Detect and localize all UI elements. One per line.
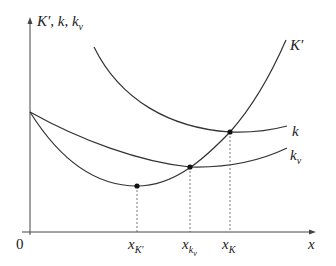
curve-label-K-prime: K′ (290, 38, 303, 53)
tick-label-xKprime: xK′ (128, 237, 144, 255)
tick-label-xK: xK (222, 237, 235, 255)
curve-label-k: k (292, 124, 299, 139)
diagram-svg (0, 0, 336, 266)
tick-label-xkv: xkv (182, 237, 197, 258)
x-axis-arrow-icon (309, 230, 316, 235)
point-kv-intersection (187, 164, 192, 169)
origin-label: 0 (16, 237, 24, 252)
curve-label-kv: kv (290, 148, 301, 166)
curve-k (94, 47, 287, 132)
point-k-intersection (227, 129, 232, 134)
y-axis-arrow-icon (28, 17, 33, 24)
x-axis-label: x (308, 237, 315, 252)
y-axis-label: K′, k, kv (37, 14, 83, 32)
cost-curves-diagram: K′, k, kv K′ k kv 0 x xK′ xkv xK (0, 0, 336, 266)
point-K-prime-min (134, 183, 139, 188)
